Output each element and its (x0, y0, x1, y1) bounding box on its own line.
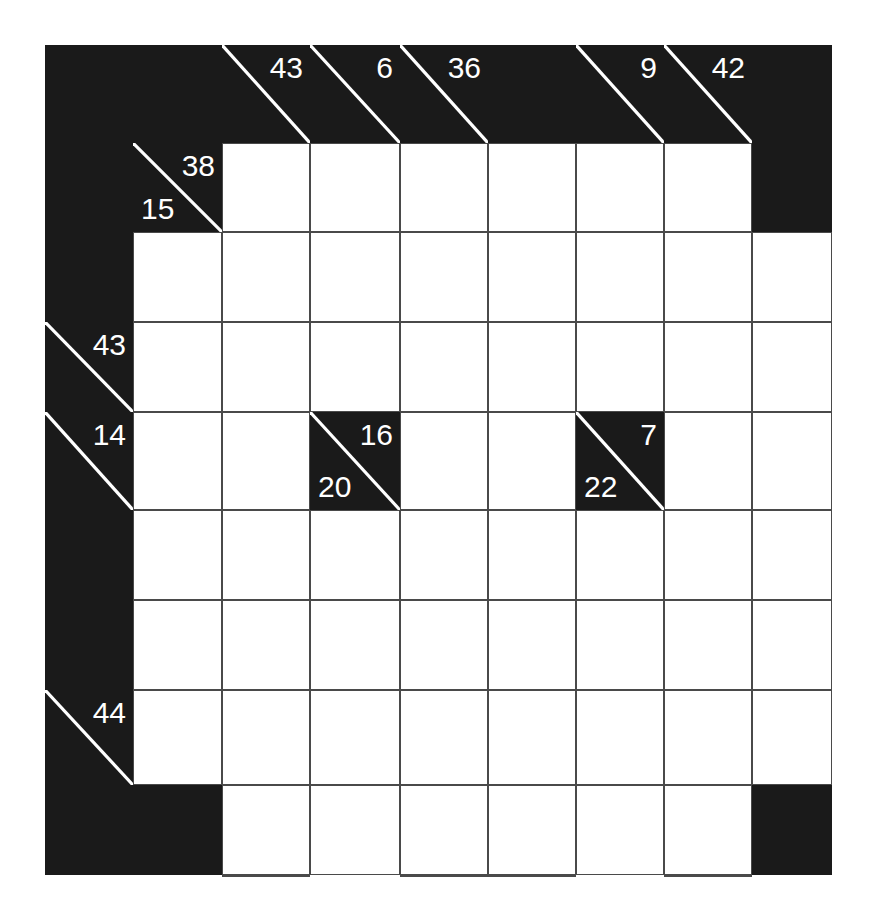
cell-r4c2[interactable] (222, 412, 310, 510)
block-r6c0 (45, 600, 133, 690)
cell-r7c7[interactable] (664, 690, 752, 785)
cell-r7c2[interactable] (222, 690, 310, 785)
cell-r3c1[interactable] (133, 322, 222, 412)
block-r2c0 (45, 232, 133, 322)
cell-r4c5[interactable] (488, 412, 576, 510)
cell-r7c3[interactable] (310, 690, 400, 785)
cell-r1c6[interactable] (576, 143, 664, 232)
cell-r6c8[interactable] (752, 600, 832, 690)
cell-r2c7[interactable] (664, 232, 752, 322)
block-r8c8 (752, 785, 832, 875)
clue-r3c0-down-clue: 43 (93, 330, 126, 360)
cell-r2c4[interactable] (400, 232, 488, 322)
cell-r6c1[interactable] (133, 600, 222, 690)
cell-r5c2[interactable] (222, 510, 310, 600)
cell-r1c4[interactable] (400, 143, 488, 232)
cell-r1c3[interactable] (310, 143, 400, 232)
block-r0c5 (488, 45, 576, 143)
block-r0c8 (752, 45, 832, 143)
cell-r6c6[interactable] (576, 600, 664, 690)
clue-r7c0: 44 (45, 690, 133, 785)
cell-r6c5[interactable] (488, 600, 576, 690)
block-r8c1 (133, 785, 222, 875)
clue-r0c3-down-clue: 6 (376, 53, 393, 83)
cell-r6c4[interactable] (400, 600, 488, 690)
clue-r1c1: 3815 (133, 143, 222, 232)
clue-r3c0: 43 (45, 322, 133, 412)
clue-r0c2-down-clue: 43 (270, 53, 303, 83)
cell-r3c4[interactable] (400, 322, 488, 412)
cell-r6c3[interactable] (310, 600, 400, 690)
cell-r2c3[interactable] (310, 232, 400, 322)
cell-r7c8[interactable] (752, 690, 832, 785)
clue-r0c6-down-clue: 9 (640, 53, 657, 83)
clue-r4c3: 1620 (310, 412, 400, 510)
block-r1c8 (752, 143, 832, 232)
clue-r4c3-across-clue: 20 (318, 472, 351, 502)
cell-r4c1[interactable] (133, 412, 222, 510)
block-r0c1 (133, 45, 222, 143)
cell-r5c3[interactable] (310, 510, 400, 600)
cell-r5c8[interactable] (752, 510, 832, 600)
clue-r0c3: 6 (310, 45, 400, 143)
cell-r2c6[interactable] (576, 232, 664, 322)
cell-r5c4[interactable] (400, 510, 488, 600)
clue-r4c6-across-clue: 22 (584, 472, 617, 502)
cell-r5c6[interactable] (576, 510, 664, 600)
clue-r0c7-down-clue: 42 (712, 53, 745, 83)
cell-r5c7[interactable] (664, 510, 752, 600)
cell-r1c2[interactable] (222, 143, 310, 232)
clue-r4c0: 14 (45, 412, 133, 510)
cell-r3c7[interactable] (664, 322, 752, 412)
cell-r6c7[interactable] (664, 600, 752, 690)
cell-r7c6[interactable] (576, 690, 664, 785)
clue-r4c0-down-clue: 14 (93, 420, 126, 450)
clue-r4c3-down-clue: 16 (360, 420, 393, 450)
clue-r1c1-down-clue: 38 (182, 151, 215, 181)
cell-r8c4[interactable] (400, 785, 488, 875)
cell-r2c8[interactable] (752, 232, 832, 322)
cell-r5c1[interactable] (133, 510, 222, 600)
block-r8c0 (45, 785, 133, 875)
clue-r1c1-across-clue: 15 (141, 194, 174, 224)
cell-r3c3[interactable] (310, 322, 400, 412)
cell-r4c7[interactable] (664, 412, 752, 510)
cell-r3c6[interactable] (576, 322, 664, 412)
clue-r7c0-down-clue: 44 (93, 698, 126, 728)
kakuro-page: 436369423815431416207224415 (0, 0, 878, 922)
cell-r9c5[interactable] (488, 875, 576, 877)
cell-r7c1[interactable] (133, 690, 222, 785)
cell-r3c8[interactable] (752, 322, 832, 412)
kakuro-grid[interactable]: 436369423815431416207224415 (45, 45, 832, 875)
cell-r3c2[interactable] (222, 322, 310, 412)
clue-r0c4-down-clue: 36 (448, 53, 481, 83)
cell-r8c6[interactable] (576, 785, 664, 875)
cell-r9c7[interactable] (664, 875, 752, 877)
cell-r8c2[interactable] (222, 785, 310, 875)
clue-r0c6: 9 (576, 45, 664, 143)
cell-r9c4[interactable] (400, 875, 488, 877)
cell-r4c8[interactable] (752, 412, 832, 510)
cell-r2c2[interactable] (222, 232, 310, 322)
cell-r2c5[interactable] (488, 232, 576, 322)
block-r1c0 (45, 143, 133, 232)
cell-r8c5[interactable] (488, 785, 576, 875)
block-r0c0 (45, 45, 133, 143)
clue-r0c2: 43 (222, 45, 310, 143)
cell-r6c2[interactable] (222, 600, 310, 690)
cell-r7c5[interactable] (488, 690, 576, 785)
cell-r2c1[interactable] (133, 232, 222, 322)
cell-r5c5[interactable] (488, 510, 576, 600)
cell-r8c3[interactable] (310, 785, 400, 875)
clue-r4c6: 722 (576, 412, 664, 510)
cell-r1c5[interactable] (488, 143, 576, 232)
cell-r4c4[interactable] (400, 412, 488, 510)
clue-r4c6-down-clue: 7 (640, 420, 657, 450)
clue-r0c4: 36 (400, 45, 488, 143)
clue-r0c7: 42 (664, 45, 752, 143)
cell-r1c7[interactable] (664, 143, 752, 232)
cell-r8c7[interactable] (664, 785, 752, 875)
cell-r3c5[interactable] (488, 322, 576, 412)
cell-r7c4[interactable] (400, 690, 488, 785)
cell-r9c2[interactable] (222, 875, 310, 877)
